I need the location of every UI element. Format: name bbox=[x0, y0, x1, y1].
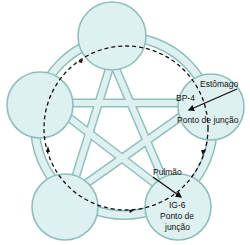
label-junction-bottom-1: Ponto de bbox=[160, 212, 194, 221]
label-bp4: BP-4 bbox=[176, 94, 195, 103]
node-bottom-left bbox=[32, 174, 98, 240]
label-junction-bottom-2: junção bbox=[165, 223, 190, 232]
label-lung: Pulmão bbox=[153, 168, 182, 177]
label-stomach: Estômago bbox=[200, 80, 238, 89]
node-top bbox=[78, 2, 146, 70]
label-ig6: IG-6 bbox=[169, 201, 186, 210]
node-left bbox=[7, 72, 73, 138]
label-junction-right: Ponto de junção bbox=[177, 116, 238, 125]
cycle-arrow-icon bbox=[46, 146, 50, 152]
